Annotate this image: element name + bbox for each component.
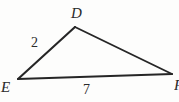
triangle-edge-ED: [18, 27, 75, 79]
triangle-edge-EF: [18, 74, 172, 79]
side-length-label-ef: 7: [83, 83, 90, 97]
triangle-edge-DF: [75, 27, 172, 74]
vertex-label-d: D: [71, 6, 82, 21]
triangle-figure: D E F 2 7: [0, 0, 179, 102]
side-length-label-de: 2: [31, 36, 38, 50]
vertex-label-f: F: [174, 78, 179, 93]
vertex-label-e: E: [1, 80, 10, 95]
